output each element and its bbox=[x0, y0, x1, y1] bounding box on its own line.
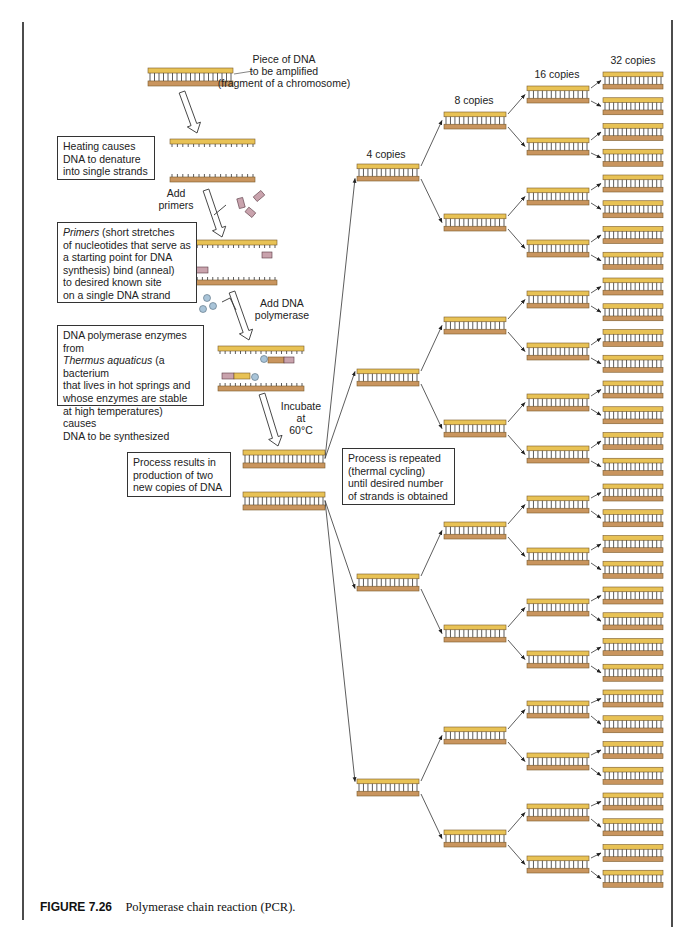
strand-bottom bbox=[603, 625, 663, 630]
strand-bottom bbox=[444, 739, 506, 744]
branch-arrow bbox=[508, 640, 525, 660]
strand-top bbox=[148, 68, 233, 73]
new-strand bbox=[234, 373, 250, 379]
branch-arrow bbox=[591, 699, 601, 704]
strand bbox=[218, 386, 304, 391]
dna-copy-gen16 bbox=[527, 856, 589, 873]
strand-bottom bbox=[527, 406, 589, 411]
strand-top bbox=[603, 355, 663, 360]
incubate-label-1: Incubate bbox=[281, 400, 321, 412]
strand-bottom bbox=[603, 84, 663, 89]
strand-top bbox=[444, 420, 506, 425]
strand-top bbox=[603, 613, 663, 618]
strand-bottom bbox=[603, 342, 663, 347]
strand-bottom bbox=[603, 728, 663, 733]
branch-arrow bbox=[591, 441, 601, 448]
bound-primer bbox=[196, 267, 208, 273]
branch-arrow bbox=[508, 229, 525, 249]
dna-copy-gen32 bbox=[603, 639, 663, 656]
add-polymerase-label-2: polymerase bbox=[255, 309, 309, 321]
dna-copy-gen16 bbox=[527, 599, 589, 616]
strand-top bbox=[527, 856, 589, 861]
incubate-label-3: 60°C bbox=[289, 424, 313, 436]
branch-arrow bbox=[421, 179, 442, 223]
strand-bottom bbox=[527, 200, 589, 205]
strand-bottom bbox=[603, 110, 663, 115]
dna-copy-gen16 bbox=[527, 86, 589, 103]
strand-bottom bbox=[603, 264, 663, 269]
branch-arrow bbox=[591, 255, 601, 261]
strand-top bbox=[243, 450, 325, 455]
strand-top bbox=[603, 793, 663, 798]
branch-arrow bbox=[591, 750, 601, 755]
branch-arrow bbox=[421, 589, 442, 634]
branch-arrow bbox=[591, 153, 601, 158]
strand-top bbox=[603, 227, 663, 232]
strand-top bbox=[527, 446, 589, 451]
primers-note-line: Primers (short stretches bbox=[63, 226, 191, 239]
strand-top bbox=[603, 72, 663, 77]
primers-note: Primers (short stretches of nucleotides … bbox=[57, 222, 197, 303]
dna-copy-gen32 bbox=[603, 587, 663, 604]
dna-copy-gen16 bbox=[527, 240, 589, 257]
branch-arrow bbox=[591, 461, 601, 467]
dna-copy-gen16 bbox=[527, 548, 589, 565]
strand bbox=[190, 280, 277, 285]
dna-piece-label-1: Piece of DNA bbox=[252, 53, 315, 65]
strand-top bbox=[603, 870, 663, 875]
dna-copy-gen4 bbox=[357, 574, 419, 591]
dna-copy-gen32 bbox=[603, 278, 663, 295]
dna-copy-gen32 bbox=[603, 819, 663, 836]
branch-arrow bbox=[421, 326, 442, 372]
strand-top bbox=[357, 369, 419, 374]
results-note-line: production of two bbox=[133, 469, 225, 482]
primer-icon bbox=[237, 197, 245, 208]
dna-copy-gen16 bbox=[527, 343, 589, 360]
strand-bottom bbox=[603, 393, 663, 398]
annealed-strand-bottom bbox=[190, 277, 277, 285]
dna-copy-gen2 bbox=[243, 450, 325, 468]
strand-bottom bbox=[603, 419, 663, 424]
strand-bottom bbox=[603, 316, 663, 321]
strand-bottom bbox=[243, 505, 325, 510]
strand-bottom bbox=[603, 573, 663, 578]
branch-arrow bbox=[591, 493, 601, 499]
strand-top bbox=[603, 690, 663, 695]
strand-bottom bbox=[603, 496, 663, 501]
polymerase-icon bbox=[261, 356, 268, 363]
dna-copy-gen4 bbox=[357, 779, 419, 796]
new-strand bbox=[268, 357, 284, 363]
branch-arrow bbox=[591, 390, 601, 397]
figure-caption: FIGURE 7.26 Polymerase chain reaction (P… bbox=[40, 900, 295, 915]
strand-bottom bbox=[603, 779, 663, 784]
strand-bottom bbox=[603, 548, 663, 553]
strand-top bbox=[603, 845, 663, 850]
bound-primer bbox=[284, 357, 294, 363]
strand-bottom bbox=[444, 226, 506, 231]
dna-copy-gen32 bbox=[603, 561, 663, 578]
strand-bottom bbox=[444, 637, 506, 642]
strand-bottom bbox=[527, 611, 589, 616]
strand-top bbox=[603, 536, 663, 541]
branch-arrow bbox=[591, 235, 601, 242]
gen-8-label: 8 copies bbox=[454, 94, 493, 106]
strand-bottom bbox=[603, 754, 663, 759]
polymerase-note: DNA polymerase enzymes from Thermus aqua… bbox=[57, 325, 204, 406]
dna-copy-gen4 bbox=[357, 164, 419, 181]
strand-top bbox=[357, 574, 419, 579]
strand-bottom bbox=[444, 432, 506, 437]
branch-arrow bbox=[508, 710, 525, 730]
incubate-label-2: at bbox=[297, 412, 306, 424]
dna-copy-gen32 bbox=[603, 124, 663, 141]
results-note-line: Process results in bbox=[133, 456, 225, 469]
strand-top bbox=[603, 407, 663, 412]
branch-arrow bbox=[508, 127, 525, 147]
strand bbox=[170, 177, 255, 182]
polymerase-note-line: that lives in hot springs and bbox=[63, 379, 198, 392]
dna-copy-gen32 bbox=[603, 458, 663, 475]
strand-bottom bbox=[603, 882, 663, 887]
branch-arrow bbox=[508, 742, 525, 762]
heating-note: Heating causes DNA to denature into sing… bbox=[57, 136, 155, 180]
single-strand-top bbox=[170, 139, 255, 147]
strand-bottom bbox=[444, 329, 506, 334]
